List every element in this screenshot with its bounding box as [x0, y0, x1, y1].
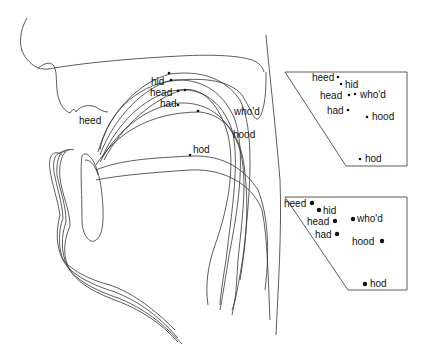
bottom-label-had: had: [315, 229, 332, 240]
top-label-heed: heed: [312, 72, 334, 83]
top-label-hod: hod: [365, 153, 382, 164]
vowel-chart-top: heed hid head who'd had hood hod: [285, 72, 407, 166]
bottom-label-head: head: [307, 216, 329, 227]
pharyngeal-wall: [266, 35, 281, 335]
face-profile: [20, 18, 264, 113]
label-hood: hood: [233, 129, 255, 140]
vocal-tract-diagram: heed hid head had who'd hood hod heed hi…: [0, 0, 432, 350]
marker-whod: [197, 110, 200, 113]
top-label-had: had: [327, 105, 344, 116]
bottom-label-heed: heed: [284, 198, 306, 209]
bottom-label-whod: who'd: [356, 213, 383, 224]
marker-hod: [189, 154, 192, 157]
vowel-chart-bottom: heed hid head who'd had hood hod: [284, 197, 407, 290]
marker-hid: [170, 79, 173, 82]
top-label-hood: hood: [372, 111, 394, 122]
bottom-label-hood: hood: [352, 236, 374, 247]
marker-head-2: [184, 89, 187, 92]
label-head: head: [150, 87, 172, 98]
marker-hid-top: [168, 72, 171, 75]
jaw-and-lower-lip: [50, 149, 183, 344]
label-hod: hod: [193, 144, 210, 155]
marker-head-1: [177, 90, 180, 93]
label-whod: who'd: [233, 106, 260, 117]
label-had: had: [160, 98, 177, 109]
top-label-whod: who'd: [359, 89, 386, 100]
bottom-label-hid: hid: [323, 205, 336, 216]
label-heed: heed: [79, 115, 101, 126]
marker-had: [177, 104, 180, 107]
label-hid: hid: [151, 76, 164, 87]
top-label-head: head: [320, 90, 342, 101]
top-label-hid: hid: [345, 79, 358, 90]
bottom-label-hod: hod: [370, 278, 387, 289]
